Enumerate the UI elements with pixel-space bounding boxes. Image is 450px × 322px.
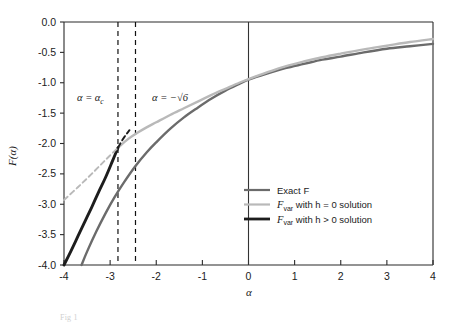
y-tick-label: -4.0 [38, 259, 56, 271]
in-plot-annotations: α = αc α = −√6 [77, 92, 189, 106]
x-tick-label: 0 [246, 270, 252, 282]
y-tick-label: -2.0 [38, 137, 56, 149]
y-tick-label: -1.5 [38, 107, 56, 119]
alpha-sqrt6-annotation: α = −√6 [152, 92, 189, 103]
x-tick-label: -4 [59, 270, 68, 282]
vertical-reference-lines [118, 22, 249, 265]
y-tick-label: 0.0 [41, 16, 56, 28]
x-tick-label: -1 [198, 270, 207, 282]
y-tick-label: -2.5 [38, 167, 56, 179]
x-tick-label: 2 [338, 270, 344, 282]
series-path-4 [64, 148, 118, 200]
x-tick-label: -3 [105, 270, 114, 282]
alpha-c-annotation: α = αc [77, 92, 104, 106]
y-axis-title: F(α) [6, 146, 19, 167]
x-axis-title: α [246, 286, 252, 298]
y-tick-label: -0.5 [38, 46, 56, 58]
y-tick-label: -3.0 [38, 198, 56, 210]
figure-caption: Fig 1 [60, 313, 78, 322]
x-axis-tick-labels: -4-3-2-101234 [59, 270, 436, 282]
y-tick-label: -3.5 [38, 228, 56, 240]
x-tick-label: -2 [152, 270, 161, 282]
x-tick-label: 1 [292, 270, 298, 282]
y-tick-label: -1.0 [38, 76, 56, 88]
legend-label-2: Fvar with h > 0 solution [276, 214, 372, 227]
x-tick-label: 3 [384, 270, 390, 282]
legend-label-0: Exact F [277, 185, 309, 196]
y-axis-ticks [60, 22, 64, 265]
chart-legend: Exact FFvar with h = 0 solutionFvar with… [244, 185, 372, 227]
y-axis-tick-labels: 0.0-0.5-1.0-1.5-2.0-2.5-3.0-3.5-4.0 [38, 16, 56, 271]
x-tick-label: 4 [430, 270, 436, 282]
legend-label-1: Fvar with h = 0 solution [276, 199, 372, 212]
